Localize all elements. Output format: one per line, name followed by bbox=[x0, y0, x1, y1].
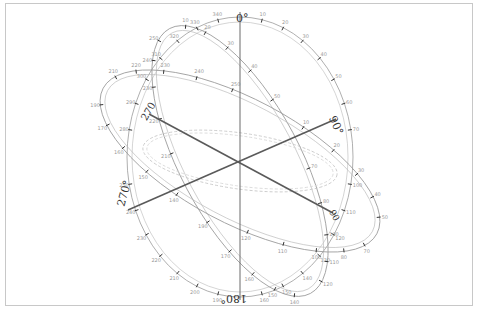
ring-tick-label: 210 bbox=[109, 68, 119, 74]
ring-tick-label: 330 bbox=[190, 19, 200, 25]
ring-tick-label: 210 bbox=[169, 275, 179, 281]
ring-tick-label: 240 bbox=[126, 209, 136, 215]
gizmo-canvas: 1020304050607010011012013014015016019020… bbox=[0, 0, 479, 321]
ring-tick-label: 250 bbox=[231, 81, 241, 87]
label-180: 180° bbox=[221, 292, 248, 305]
ring-tick-label: 290 bbox=[126, 99, 136, 105]
ring-tick-label: 200 bbox=[190, 289, 200, 295]
ring-tick-label: 300 bbox=[137, 73, 147, 79]
ring-tick-label: 150 bbox=[268, 292, 278, 298]
ring-tick-label: 40 bbox=[251, 63, 257, 69]
ring-tick-label: 80 bbox=[341, 254, 347, 260]
ring-tick-label: 10 bbox=[303, 119, 309, 125]
ring-tick-label: 230 bbox=[137, 235, 147, 241]
ring-tick-label: 100 bbox=[353, 182, 363, 188]
ring-tick-label: 40 bbox=[374, 191, 380, 197]
ring-tick-label: 10 bbox=[259, 11, 265, 17]
ring-tick-label: 60 bbox=[346, 99, 352, 105]
ring-tick-label: 140 bbox=[290, 299, 300, 305]
ring-tick-label: 20 bbox=[282, 19, 288, 25]
ring-tick-label: 310 bbox=[151, 51, 161, 57]
ring-tick-label: 140 bbox=[303, 275, 313, 281]
ring-tick-label: 240 bbox=[194, 68, 204, 74]
ring-tick-label: 30 bbox=[303, 33, 309, 39]
ring-tick-label: 20 bbox=[204, 24, 210, 30]
ring-tick-label: 340 bbox=[213, 11, 223, 17]
ring-tick-label: 190 bbox=[198, 223, 208, 229]
ring-tick-label: 70 bbox=[353, 126, 359, 132]
ring-tick-label: 110 bbox=[329, 259, 339, 265]
ring-tick-label: 210 bbox=[161, 153, 171, 159]
ring-tick bbox=[348, 130, 352, 131]
ring-tick-label: 120 bbox=[323, 281, 333, 287]
axis-diagonal-b bbox=[128, 119, 336, 210]
ring-tick-label: 70 bbox=[363, 248, 369, 254]
ring-tick-label: 150 bbox=[138, 174, 148, 180]
ring-tick-label: 10 bbox=[182, 17, 188, 23]
ring-tick-label: 190 bbox=[90, 102, 100, 108]
ring-tick-label: 230 bbox=[143, 85, 153, 91]
ring-tick-label: 230 bbox=[160, 62, 170, 68]
ring-tick-label: 30 bbox=[228, 40, 234, 46]
ring-tick-label: 170 bbox=[221, 253, 231, 259]
ring-tick-label: 150 bbox=[282, 289, 292, 295]
ring-tick-label: 50 bbox=[335, 73, 341, 79]
ring-tick-label: 250 bbox=[149, 35, 159, 41]
ring-tick-label: 80 bbox=[323, 198, 329, 204]
ring-tick-label: 220 bbox=[151, 257, 161, 263]
ring-tick-label: 320 bbox=[169, 33, 179, 39]
ring-tick-label: 240 bbox=[143, 57, 153, 63]
ring-tick-label: 70 bbox=[311, 163, 317, 169]
ring-tick-label: 160 bbox=[244, 276, 254, 282]
ring-tick-label: 120 bbox=[241, 235, 251, 241]
ring-tick-label: 100 bbox=[329, 231, 339, 237]
ring-tick-label: 280 bbox=[119, 126, 129, 132]
ring-tick-label: 20 bbox=[334, 142, 340, 148]
ring-tick-label: 40 bbox=[321, 51, 327, 57]
ring-tick-label: 110 bbox=[278, 248, 288, 254]
ring-tick bbox=[348, 184, 352, 185]
ring-tick-label: 140 bbox=[169, 197, 179, 203]
ring-tick-label: 220 bbox=[131, 62, 141, 68]
ticks-vertical: 1020304050607010011012013014015016019020… bbox=[119, 11, 362, 303]
ring-tick-label: 160 bbox=[114, 149, 124, 155]
ring-tick-label: 50 bbox=[274, 93, 280, 99]
ring-tick-label: 30 bbox=[358, 167, 364, 173]
ring-tick-label: 170 bbox=[98, 125, 108, 131]
ring-tick-label: 110 bbox=[346, 209, 356, 215]
label-0: 0° bbox=[236, 12, 249, 25]
ring-tick-label: 50 bbox=[382, 214, 388, 220]
ring-tick-label: 100 bbox=[312, 254, 322, 260]
